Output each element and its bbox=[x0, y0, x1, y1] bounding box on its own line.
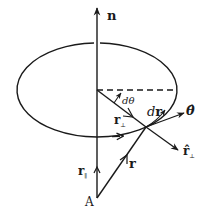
r-perp-label: r⊥ bbox=[114, 113, 126, 128]
dr-label: dr bbox=[147, 104, 162, 119]
dr-r: r bbox=[155, 104, 162, 119]
r-vector bbox=[97, 127, 146, 198]
r-perp-sub: ⊥ bbox=[120, 121, 126, 128]
r-perp-hat-vector bbox=[146, 127, 178, 150]
r-label: r bbox=[129, 156, 136, 171]
dtheta-label: dθ bbox=[122, 95, 134, 106]
r-perp-hat-sub: ⊥ bbox=[189, 152, 195, 159]
theta-hat-label: θ̂ bbox=[186, 103, 195, 118]
rotation-geometry-diagram: n dθ dr θ̂ r⊥ r̂⊥ r∥ r A bbox=[0, 0, 205, 210]
point-a-label: A bbox=[84, 195, 94, 209]
n-label: n bbox=[107, 8, 117, 23]
dr-d: d bbox=[147, 104, 155, 119]
r-perp-hat-label: r̂⊥ bbox=[183, 144, 195, 159]
r-parallel-label: r∥ bbox=[78, 164, 87, 179]
dtheta-arc bbox=[114, 93, 121, 103]
r-par-sub: ∥ bbox=[84, 172, 87, 179]
